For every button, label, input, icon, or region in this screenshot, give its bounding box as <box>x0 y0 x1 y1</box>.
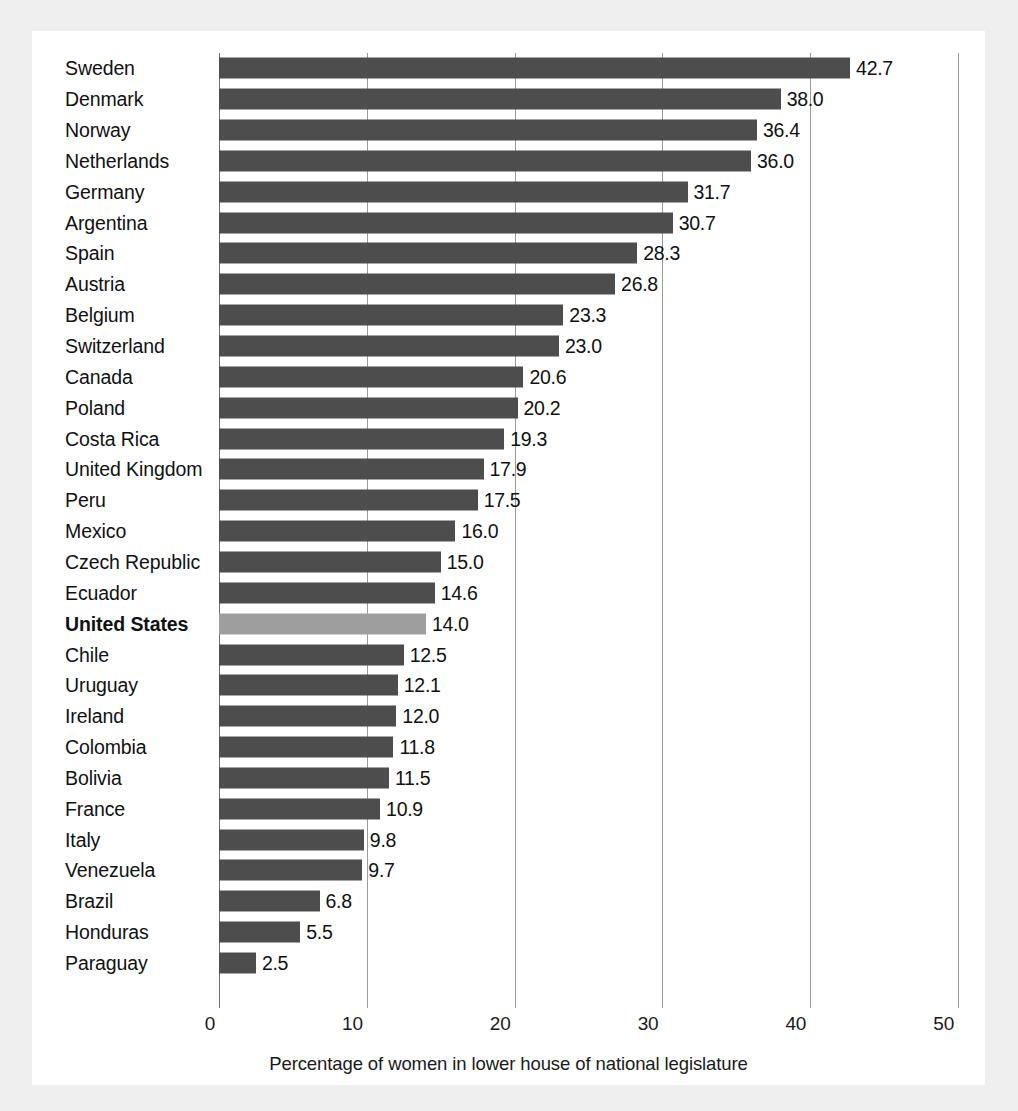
bar[interactable] <box>219 212 673 233</box>
bar-value-label: 12.0 <box>402 705 439 728</box>
plot-area: 01020304050 Sweden42.7Denmark38.0Norway3… <box>32 31 985 1085</box>
bar-value-label: 2.5 <box>262 952 288 975</box>
bar-category-label: Venezuela <box>65 859 155 882</box>
bar-row[interactable]: Poland20.2 <box>32 392 985 423</box>
bar-category-label: Norway <box>65 119 131 142</box>
bar[interactable] <box>219 582 435 603</box>
bar[interactable] <box>219 798 380 819</box>
bar[interactable] <box>219 150 751 171</box>
bar-row[interactable]: Netherlands36.0 <box>32 146 985 177</box>
bar-value-label: 16.0 <box>461 520 498 543</box>
bar-row[interactable]: Peru17.5 <box>32 485 985 516</box>
bar[interactable] <box>219 767 389 788</box>
bar-row[interactable]: Denmark38.0 <box>32 84 985 115</box>
bar[interactable] <box>219 737 393 758</box>
bar[interactable] <box>219 551 441 572</box>
bar[interactable] <box>219 953 256 974</box>
bar-value-label: 31.7 <box>694 180 731 203</box>
bar[interactable] <box>219 644 404 665</box>
bar-row[interactable]: Uruguay12.1 <box>32 670 985 701</box>
bar-value-label: 36.0 <box>757 149 794 172</box>
bar[interactable] <box>219 89 781 110</box>
bar[interactable] <box>219 490 478 511</box>
bar-value-label: 23.3 <box>569 304 606 327</box>
bar-row[interactable]: Norway36.4 <box>32 115 985 146</box>
bar-category-label: Austria <box>65 273 125 296</box>
bar-category-label: Ecuador <box>65 581 137 604</box>
bar-row[interactable]: France10.9 <box>32 793 985 824</box>
bar-row[interactable]: Honduras5.5 <box>32 917 985 948</box>
bar-value-label: 28.3 <box>643 242 680 265</box>
bar-category-label: Netherlands <box>65 149 169 172</box>
figure-root: 01020304050 Sweden42.7Denmark38.0Norway3… <box>0 0 1018 1111</box>
bar-row[interactable]: Germany31.7 <box>32 176 985 207</box>
bar[interactable] <box>219 521 455 542</box>
chart-panel: 01020304050 Sweden42.7Denmark38.0Norway3… <box>32 31 985 1085</box>
bar-row[interactable]: Ireland12.0 <box>32 701 985 732</box>
bar[interactable] <box>219 336 559 357</box>
bar-row[interactable]: Italy9.8 <box>32 824 985 855</box>
bar[interactable] <box>219 860 362 881</box>
bar-row[interactable]: Paraguay2.5 <box>32 948 985 979</box>
bar-category-label: Costa Rica <box>65 427 159 450</box>
bar-value-label: 36.4 <box>763 119 800 142</box>
bar-row[interactable]: Venezuela9.7 <box>32 855 985 886</box>
bar-row[interactable]: Belgium23.3 <box>32 300 985 331</box>
bar-value-label: 12.1 <box>404 674 441 697</box>
bar-category-label: Belgium <box>65 304 135 327</box>
bar[interactable] <box>219 243 637 264</box>
bar-row[interactable]: Colombia11.8 <box>32 732 985 763</box>
bar-category-label: Bolivia <box>65 766 122 789</box>
x-tick-label-20: 20 <box>490 1013 517 1035</box>
x-tick-label-50: 50 <box>933 1013 960 1035</box>
bar[interactable] <box>219 120 757 141</box>
bar[interactable] <box>219 706 396 727</box>
bar-row[interactable]: Ecuador14.6 <box>32 577 985 608</box>
bar-row[interactable]: Switzerland23.0 <box>32 331 985 362</box>
bar[interactable] <box>219 829 364 850</box>
bar-category-label: Mexico <box>65 520 126 543</box>
bar-row[interactable]: Chile12.5 <box>32 639 985 670</box>
bar[interactable] <box>219 366 523 387</box>
bar[interactable] <box>219 181 688 202</box>
bar-row[interactable]: Czech Republic15.0 <box>32 547 985 578</box>
bar-category-label: Switzerland <box>65 335 165 358</box>
bar-row[interactable]: Sweden42.7 <box>32 53 985 84</box>
bar-rows: Sweden42.7Denmark38.0Norway36.4Netherlan… <box>32 31 985 986</box>
bar-row[interactable]: Argentina30.7 <box>32 207 985 238</box>
bar[interactable] <box>219 922 300 943</box>
bar-row[interactable]: Mexico16.0 <box>32 516 985 547</box>
x-axis-label: Percentage of women in lower house of na… <box>32 1053 985 1075</box>
bar-value-label: 9.7 <box>368 859 394 882</box>
bar-value-label: 12.5 <box>410 643 447 666</box>
bar[interactable] <box>219 428 504 449</box>
bar-value-label: 17.5 <box>484 489 521 512</box>
bar-value-label: 23.0 <box>565 335 602 358</box>
bar-row[interactable]: Austria26.8 <box>32 269 985 300</box>
bar[interactable] <box>219 58 850 79</box>
bar-row[interactable]: Spain28.3 <box>32 238 985 269</box>
bar-row[interactable]: Brazil6.8 <box>32 886 985 917</box>
bar-row[interactable]: United States14.0 <box>32 608 985 639</box>
x-tick-label-0: 0 <box>205 1013 221 1035</box>
bar-value-label: 38.0 <box>787 88 824 111</box>
bar-row[interactable]: United Kingdom17.9 <box>32 454 985 485</box>
bar-category-label: Spain <box>65 242 114 265</box>
bar[interactable] <box>219 675 398 696</box>
bar[interactable] <box>219 459 484 480</box>
bar[interactable] <box>219 274 615 295</box>
bar-category-label: United Kingdom <box>65 458 202 481</box>
bar-row[interactable]: Bolivia11.5 <box>32 763 985 794</box>
bar-category-label: United States <box>65 612 188 635</box>
bar-row[interactable]: Canada20.6 <box>32 362 985 393</box>
bar-category-label: Brazil <box>65 890 113 913</box>
x-tick-label-10: 10 <box>342 1013 369 1035</box>
bar-value-label: 11.8 <box>399 736 434 759</box>
bar-highlighted[interactable] <box>219 613 426 634</box>
bar[interactable] <box>219 891 320 912</box>
bar-category-label: Uruguay <box>65 674 138 697</box>
bar-category-label: Ireland <box>65 705 124 728</box>
bar-row[interactable]: Costa Rica19.3 <box>32 423 985 454</box>
bar[interactable] <box>219 397 518 418</box>
bar[interactable] <box>219 305 563 326</box>
